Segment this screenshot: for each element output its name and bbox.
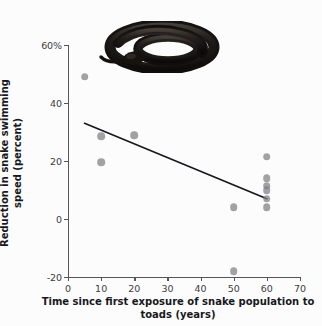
x-tick-label: 0 bbox=[65, 283, 71, 294]
data-point bbox=[263, 195, 271, 203]
x-tick-label: 10 bbox=[95, 283, 107, 294]
x-tick-mark bbox=[167, 277, 168, 281]
x-tick-label: 70 bbox=[294, 283, 306, 294]
y-tick-label: 40 bbox=[50, 98, 62, 109]
x-tick-mark bbox=[68, 277, 69, 281]
x-axis-line bbox=[68, 277, 300, 278]
data-point bbox=[230, 267, 238, 275]
x-tick-label: 40 bbox=[195, 283, 207, 294]
x-tick-mark bbox=[300, 277, 301, 281]
data-point bbox=[130, 132, 138, 140]
data-point bbox=[81, 73, 89, 81]
x-tick-label: 60 bbox=[261, 283, 273, 294]
x-tick-mark bbox=[101, 277, 102, 281]
data-point bbox=[97, 159, 105, 167]
data-point bbox=[97, 133, 105, 141]
y-tick-label: 60% bbox=[41, 40, 62, 51]
data-point bbox=[263, 153, 271, 161]
y-tick-label: -20 bbox=[47, 272, 62, 283]
x-tick-label: 20 bbox=[128, 283, 140, 294]
x-tick-mark bbox=[234, 277, 235, 281]
x-tick-mark bbox=[201, 277, 202, 281]
scatter-plot-figure: Reduction in snake swimming speed (perce… bbox=[0, 0, 322, 326]
x-tick-label: 50 bbox=[228, 283, 240, 294]
y-axis-title: Reduction in snake swimming speed (perce… bbox=[0, 68, 24, 258]
x-tick-mark bbox=[134, 277, 135, 281]
y-tick-label: 0 bbox=[56, 214, 62, 225]
x-axis-title: Time since first exposure of snake popul… bbox=[40, 295, 316, 321]
x-tick-label: 30 bbox=[161, 283, 173, 294]
plot-area: -200204060% 010203040506070 bbox=[68, 45, 300, 277]
data-point bbox=[263, 186, 271, 194]
x-tick-mark bbox=[267, 277, 268, 281]
y-tick-label: 20 bbox=[50, 156, 62, 167]
data-point bbox=[263, 204, 271, 212]
data-point bbox=[230, 204, 238, 212]
